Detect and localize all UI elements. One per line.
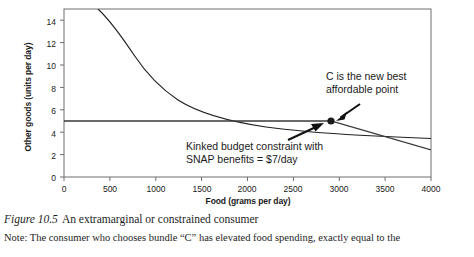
x-tick-label-4000: 4000 — [411, 184, 451, 194]
x-axis-ticks — [64, 177, 431, 181]
figure-container: 14 12 10 8 6 4 2 0 0 500 1000 1500 2000 … — [0, 0, 474, 212]
y-tick-label-2: 2 — [30, 151, 56, 161]
x-axis-title: Food (grams per day) — [64, 196, 432, 206]
x-tick-label-0: 0 — [44, 184, 84, 194]
annotation-kinked-budget-constraint: Kinked budget constraint with SNAP benef… — [186, 140, 323, 165]
y-tick-label-6: 6 — [30, 106, 56, 116]
y-axis-title: Other goods (units per day) — [23, 21, 33, 173]
x-tick-label-1500: 1500 — [182, 184, 222, 194]
y-tick-label-12: 12 — [30, 39, 56, 49]
caption-block: Figure 10.5An extramarginal or constrain… — [4, 212, 470, 245]
x-tick-label-500: 500 — [90, 184, 130, 194]
x-tick-label-3000: 3000 — [319, 184, 359, 194]
y-tick-label-14: 14 — [30, 17, 56, 27]
y-tick-label-0: 0 — [30, 173, 56, 183]
point-c-marker — [327, 117, 334, 124]
x-tick-label-2000: 2000 — [227, 184, 267, 194]
figure-title: An extramarginal or constrained consumer — [58, 213, 259, 225]
y-tick-label-4: 4 — [30, 129, 56, 139]
x-tick-label-1000: 1000 — [136, 184, 176, 194]
y-tick-label-8: 8 — [30, 84, 56, 94]
figure-number: Figure 10.5 — [4, 213, 58, 225]
y-axis-ticks — [60, 20, 64, 177]
x-tick-label-3500: 3500 — [365, 184, 405, 194]
annotation-c-line-1: C is the new best — [326, 70, 407, 83]
figure-caption: Figure 10.5An extramarginal or constrain… — [4, 212, 470, 227]
annotation-budget-line-1: Kinked budget constraint with — [186, 140, 323, 153]
annotation-c-best-affordable-point: C is the new best affordable point — [326, 70, 407, 95]
annotation-c-line-2: affordable point — [326, 83, 407, 96]
y-tick-label-10: 10 — [30, 61, 56, 71]
annotation-budget-line-2: SNAP benefits = $7/day — [186, 153, 323, 166]
x-tick-label-2500: 2500 — [273, 184, 313, 194]
figure-note: Note: The consumer who chooses bundle “C… — [4, 231, 470, 245]
chart-plot-area — [0, 0, 474, 212]
